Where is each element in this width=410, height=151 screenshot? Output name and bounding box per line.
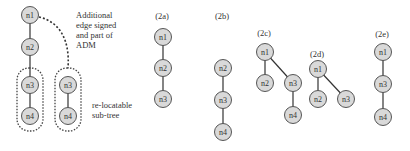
additional-edge-dashed	[39, 17, 68, 68]
svg-text:n2: n2	[261, 79, 269, 88]
tree-diagram: n1 n2 n3 n4 n3 n4 Additional edge signed…	[0, 0, 410, 151]
node-2c-n4: n4	[285, 107, 302, 124]
node-n4-copy: n4	[60, 108, 77, 125]
svg-text:n1: n1	[314, 65, 322, 74]
svg-text:n2: n2	[314, 95, 322, 104]
panel-2a: (2a) n1 n2 n3	[155, 11, 172, 108]
panel-label-2d: (2d)	[310, 49, 324, 59]
node-n3: n3	[22, 77, 39, 94]
svg-text:n3: n3	[342, 95, 350, 104]
svg-text:n1: n1	[159, 33, 167, 42]
annotation-edge-line1: Additional	[76, 10, 113, 20]
svg-text:n1: n1	[379, 48, 387, 57]
panel-label-2c: (2c)	[257, 28, 271, 38]
panel-2e: (2e) n1 n3 n4	[375, 29, 392, 126]
node-2a-n2: n2	[155, 60, 172, 77]
svg-text:n4: n4	[64, 112, 72, 121]
node-2d-n2: n2	[310, 91, 327, 108]
node-n1: n1	[22, 7, 39, 24]
node-n2: n2	[22, 39, 39, 56]
svg-text:n2: n2	[159, 64, 167, 73]
annotation-subtree-line2: sub-tree	[92, 110, 120, 120]
svg-text:n3: n3	[159, 95, 167, 104]
node-2b-n4: n4	[215, 124, 232, 141]
svg-text:n2: n2	[26, 43, 34, 52]
node-2c-n1: n1	[257, 44, 274, 61]
panel-label-2a: (2a)	[155, 11, 169, 21]
svg-text:n3: n3	[26, 81, 34, 90]
svg-text:n4: n4	[289, 111, 297, 120]
svg-text:n3: n3	[289, 79, 297, 88]
node-2a-n1: n1	[155, 29, 172, 46]
node-2e-n3: n3	[375, 76, 392, 93]
main-tree: n1 n2 n3 n4 n3 n4 Additional edge signed…	[17, 7, 132, 132]
node-n3-copy: n3	[60, 77, 77, 94]
svg-text:n3: n3	[379, 80, 387, 89]
svg-text:n4: n4	[26, 112, 34, 121]
node-2a-n3: n3	[155, 91, 172, 108]
panel-2b: (2b) n2 n3 n4	[215, 11, 232, 141]
annotation-subtree-line1: re-locatable	[92, 100, 132, 110]
panel-label-2e: (2e)	[375, 29, 389, 39]
node-2b-n2: n2	[215, 60, 232, 77]
node-2d-n3: n3	[338, 91, 355, 108]
annotation-edge-line2: edge signed	[76, 20, 117, 30]
node-2e-n1: n1	[375, 44, 392, 61]
annotation-edge-line4: ADM	[76, 40, 96, 50]
node-2d-n1: n1	[310, 61, 327, 78]
svg-text:n4: n4	[379, 113, 387, 122]
svg-text:n3: n3	[219, 96, 227, 105]
svg-text:n3: n3	[64, 81, 72, 90]
svg-text:n1: n1	[261, 48, 269, 57]
svg-text:n1: n1	[26, 11, 34, 20]
node-2c-n3: n3	[285, 75, 302, 92]
panel-2d: (2d) n1 n2 n3	[310, 49, 355, 108]
panel-2c: (2c) n1 n2 n3 n4	[257, 28, 302, 124]
panel-label-2b: (2b)	[215, 11, 229, 21]
node-2c-n2: n2	[257, 75, 274, 92]
annotation-edge-line3: and part of	[76, 30, 113, 40]
svg-text:n4: n4	[219, 128, 227, 137]
node-n4: n4	[22, 108, 39, 125]
node-2e-n4: n4	[375, 109, 392, 126]
svg-text:n2: n2	[219, 64, 227, 73]
node-2b-n3: n3	[215, 92, 232, 109]
